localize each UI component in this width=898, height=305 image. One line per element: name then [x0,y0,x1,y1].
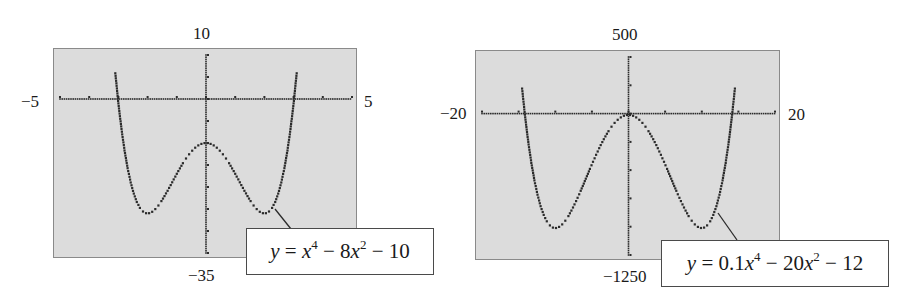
xmax-label-left: 5 [364,93,373,110]
eq-left-exp1: 4 [311,237,318,252]
eq-left-op2: − [372,239,384,263]
eq-right-var2: x [804,251,813,275]
xmin-label-right: −20 [440,105,467,122]
ymax-label-right: 500 [612,26,638,43]
eq-right-const: 12 [842,251,863,275]
eq-right-exp2: 2 [813,249,820,264]
eq-left-var2: x [351,239,360,263]
eq-right-op1: − [766,251,778,275]
xmax-label-right: 20 [788,106,805,123]
ymin-label-right: −1250 [603,268,647,285]
plot-svg-right [476,51,781,261]
eq-left-exp2: 2 [360,237,367,252]
eq-right-coef2: 20 [783,251,804,275]
ymin-label-left: −35 [188,267,215,284]
eq-left-equals: = [285,239,297,263]
eq-left-op1: − [323,239,335,263]
equation-label-left: y = x4 − 8x2 − 10 [246,228,434,275]
eq-left-var: x [302,239,311,263]
eq-left-coef2: 8 [340,239,351,263]
eq-right-equals: = [701,251,713,275]
eq-right-coef1: 0.1 [719,251,745,275]
eq-right-lhs: y [687,251,696,275]
xmin-label-left: −5 [21,93,39,110]
eq-left-const: 10 [389,239,410,263]
eq-right-exp1: 4 [754,249,761,264]
equation-label-right: y = 0.1x4 − 20x2 − 12 [661,240,889,287]
eq-right-op2: − [825,251,837,275]
eq-right-var: x [745,251,754,275]
eq-left-lhs: y [270,239,279,263]
plot-area-right [475,50,780,260]
plot-area-left [53,48,357,258]
ymax-label-left: 10 [193,25,210,42]
